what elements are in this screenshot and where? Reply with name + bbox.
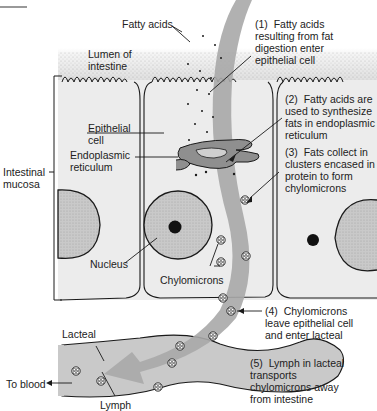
label-lumen: Lumen of intestine [88, 48, 132, 72]
chylomicron [227, 307, 235, 315]
chylomicron [176, 342, 184, 350]
label-intestinal-mucosa: Intestinal mucosa [3, 166, 45, 190]
chylomicron [97, 377, 105, 385]
chylomicron [242, 252, 250, 260]
label-chylomicrons: Chylomicrons [160, 274, 224, 286]
fat-absorption-diagram: Fatty acids Lumen of intestine Epithelia… [0, 0, 377, 411]
label-epithelial-cell: Epithelial cell [88, 122, 131, 146]
chylomicron [217, 258, 225, 266]
nucleolus-center [169, 221, 182, 234]
chylomicron [241, 196, 249, 204]
label-lacteal: Lacteal [62, 328, 96, 340]
chylomicron [217, 236, 225, 244]
step-5: (5) Lymph in lacteal transports chylomic… [250, 357, 344, 405]
step-2: (2) Fatty acids are used to synthesize f… [285, 93, 375, 141]
label-endoplasmic-reticulum: Endoplasmic reticulum [70, 149, 130, 173]
chylomicron [72, 367, 80, 375]
chylomicron [168, 359, 176, 367]
chylomicron [219, 294, 227, 302]
chylomicron [209, 332, 217, 340]
label-fatty-acids: Fatty acids [122, 18, 173, 30]
chylomicron [154, 383, 162, 391]
label-to-blood: To blood [6, 378, 46, 390]
step-3: (3) Fats collect in clusters encased in … [285, 146, 375, 194]
step-1: (1) Fatty acids resulting from fat diges… [255, 18, 333, 66]
label-nucleus: Nucleus [90, 258, 128, 270]
step-4: (4) Chylomicrons leave epithelial cell a… [265, 305, 353, 341]
label-lymph: Lymph [100, 399, 131, 411]
nucleolus-right [307, 234, 319, 246]
